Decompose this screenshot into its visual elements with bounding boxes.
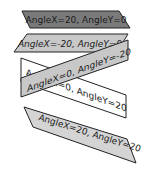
- skewed-box-label: AngleX=20, AngleY=0: [26, 15, 127, 25]
- skew-demo-canvas: AngleX=20, AngleY=0 AngleX=0, AngleY=20 …: [0, 0, 146, 170]
- skewed-box-x20-y0: AngleX=20, AngleY=0: [22, 11, 130, 28]
